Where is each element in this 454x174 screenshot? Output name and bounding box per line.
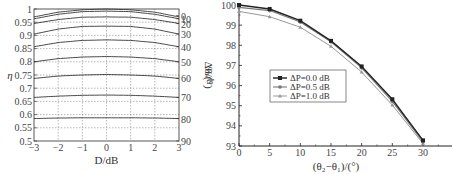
triangle-marker	[329, 44, 333, 48]
y-tick-label: 0.7	[20, 83, 33, 94]
y-tick-label: 0.85	[15, 43, 33, 54]
x-tick-label: 5	[267, 147, 272, 158]
y2-tick-label: 90	[181, 136, 191, 147]
y-tick-label: 0.55	[15, 122, 33, 133]
y-tick-label: 98	[226, 40, 236, 51]
y-tick-label: 95	[226, 100, 236, 111]
square-marker	[268, 7, 272, 11]
square-marker	[278, 76, 282, 80]
y-tick-label: 0.8	[20, 56, 33, 67]
x-axis-label: D/dB	[95, 154, 119, 166]
y-tick-label: 0.65	[15, 96, 33, 107]
y2-tick-label: 80	[181, 114, 191, 125]
y-tick-label: 1	[27, 4, 32, 15]
x-tick-label: 25	[387, 147, 397, 158]
square-marker	[360, 64, 364, 68]
square-marker	[298, 19, 302, 23]
y2-tick-label: 70	[181, 92, 191, 103]
x-tick-label: 20	[357, 147, 367, 158]
y2-tick-label: 60	[181, 73, 191, 84]
y-tick-label: 94	[226, 120, 236, 131]
x-tick-label: 30	[418, 147, 428, 158]
y2-tick-label: 0	[181, 11, 186, 22]
x-tick-label: 0	[237, 147, 242, 158]
x-axis-label: (θ₂−θ₁)/(°)	[313, 160, 360, 173]
y-tick-label: 99	[226, 20, 236, 31]
x-tick-label: 15	[326, 147, 336, 158]
curve	[34, 17, 179, 24]
right-chart: 05101520253093949596979899100ΔP=0.0 dBΔP…	[202, 0, 452, 173]
square-marker	[329, 39, 333, 43]
y-tick-label: 97	[226, 60, 236, 71]
legend: ΔP=0.0 dBΔP=0.5 dBΔP=1.0 dB	[270, 70, 346, 102]
square-marker	[390, 97, 394, 101]
y2-tick-label: 30	[181, 29, 191, 40]
x-tick-label: 2	[152, 142, 157, 153]
y-tick-label: 0.6	[20, 109, 33, 120]
legend-label: ΔP=1.0 dB	[290, 91, 330, 101]
y2-tick-label: 50	[181, 57, 191, 68]
y-axis-label: η/%	[202, 67, 214, 85]
square-marker	[421, 138, 425, 142]
x-tick-label: 1	[128, 142, 133, 153]
square-marker	[237, 3, 241, 7]
circle-marker	[278, 85, 282, 89]
y-tick-label: 0.9	[20, 30, 33, 41]
figure: −3−2−101230.50.550.60.650.70.750.80.850.…	[0, 0, 454, 174]
y-tick-label: 0.75	[15, 70, 33, 81]
y-tick-label: 0.95	[15, 17, 33, 28]
x-tick-label: 0	[104, 142, 109, 153]
y-tick-label: 0.5	[20, 136, 33, 147]
x-tick-label: 10	[295, 147, 305, 158]
y-tick-label: 96	[226, 80, 236, 91]
x-tick-label: −1	[77, 142, 88, 153]
y2-tick-label: 40	[181, 42, 191, 53]
y-axis-label: η	[7, 69, 12, 81]
y-tick-label: 93	[226, 141, 236, 152]
left-chart: −3−2−101230.50.550.60.650.70.750.80.850.…	[7, 4, 215, 167]
x-tick-label: −2	[53, 142, 64, 153]
y-tick-label: 100	[221, 0, 236, 11]
